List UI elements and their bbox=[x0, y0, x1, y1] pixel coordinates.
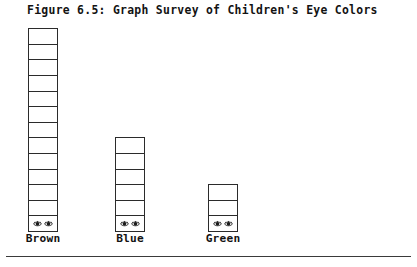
bar-cell bbox=[116, 200, 144, 216]
bar-cell bbox=[29, 137, 57, 153]
bar-cell bbox=[116, 169, 144, 185]
bar-cell bbox=[29, 106, 57, 122]
bar-stack bbox=[208, 184, 238, 232]
bar-cell bbox=[116, 184, 144, 200]
bar-cell bbox=[116, 137, 144, 153]
bar-column-green bbox=[208, 184, 238, 232]
bar-cell bbox=[29, 59, 57, 75]
category-label-green: Green bbox=[206, 232, 241, 245]
plot-area bbox=[0, 0, 417, 232]
bar-stack bbox=[115, 137, 145, 232]
eye-icon bbox=[33, 219, 42, 228]
bar-cell-marked bbox=[116, 215, 144, 231]
eye-icon bbox=[44, 219, 53, 228]
category-label-brown: Brown bbox=[26, 232, 61, 245]
bar-cell bbox=[29, 153, 57, 169]
eye-icon bbox=[120, 219, 129, 228]
eye-icon bbox=[224, 219, 233, 228]
category-label-blue: Blue bbox=[116, 232, 144, 245]
eye-icon bbox=[213, 219, 222, 228]
bar-cell-marked bbox=[209, 215, 237, 231]
footer-divider bbox=[6, 256, 411, 257]
category-axis-labels: BrownBlueGreen bbox=[0, 232, 417, 252]
bar-cell bbox=[29, 169, 57, 185]
bar-cell-marked bbox=[29, 215, 57, 231]
bar-cell bbox=[116, 153, 144, 169]
bar-column-blue bbox=[115, 137, 145, 232]
bar-cell bbox=[29, 28, 57, 44]
bar-cell bbox=[209, 200, 237, 216]
bar-cell bbox=[29, 184, 57, 200]
figure-container: Figure 6.5: Graph Survey of Children's E… bbox=[0, 0, 417, 267]
bar-cell bbox=[29, 122, 57, 138]
bar-cell bbox=[29, 44, 57, 60]
bar-column-brown bbox=[28, 28, 58, 232]
bar-cell bbox=[209, 184, 237, 200]
bar-cell bbox=[29, 91, 57, 107]
bar-cell bbox=[29, 75, 57, 91]
bar-cell bbox=[29, 200, 57, 216]
eye-icon bbox=[131, 219, 140, 228]
bar-stack bbox=[28, 28, 58, 232]
